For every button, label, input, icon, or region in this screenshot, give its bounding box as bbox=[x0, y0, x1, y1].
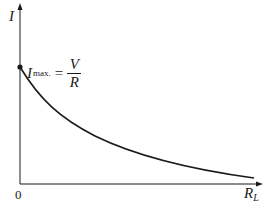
imax-annotation: I max. = V R bbox=[27, 57, 81, 90]
annotation-equals: = bbox=[55, 66, 63, 81]
annotation-fraction: V R bbox=[67, 57, 81, 90]
y-axis-label: I bbox=[9, 9, 14, 24]
y-axis-arrow-icon bbox=[18, 3, 23, 10]
fraction-denominator: R bbox=[68, 75, 81, 90]
imax-point bbox=[17, 64, 22, 69]
x-axis-label: RL bbox=[244, 186, 259, 203]
diagram-canvas bbox=[0, 0, 273, 205]
x-axis-label-main: R bbox=[244, 185, 253, 201]
annotation-subscript: max. bbox=[33, 69, 51, 78]
annotation-symbol: I bbox=[27, 66, 32, 81]
origin-label: 0 bbox=[15, 188, 22, 201]
x-axis-label-subscript: L bbox=[253, 192, 259, 203]
fraction-numerator: V bbox=[68, 57, 81, 72]
